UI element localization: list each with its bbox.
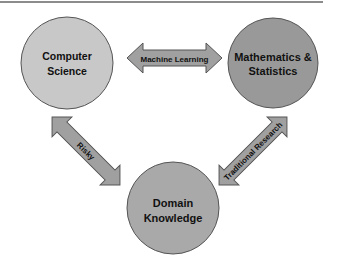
edge-machine-learning-arrow: Machine Learning [127, 43, 222, 73]
edge-risky-arrow: Risky [42, 107, 130, 195]
edge-label: Machine Learning [140, 55, 208, 64]
edge-label: Traditional Research [222, 120, 284, 182]
node-label-line: Mathematics & [234, 51, 312, 63]
node-computer-science: Computer Science [21, 17, 113, 109]
edge-traditional-research-arrow: Traditional Research [209, 107, 297, 195]
node-label-line: Computer [42, 50, 92, 62]
node-label-line: Domain [153, 197, 194, 209]
node-label-line: Statistics [249, 65, 298, 77]
node-label-line: Knowledge [144, 212, 203, 224]
node-domain-knowledge: Domain Knowledge [127, 162, 219, 254]
node-label-line: Science [47, 65, 87, 77]
data-science-diagram: Computer Science Mathematics & Statistic… [0, 0, 339, 264]
node-mathematics-statistics: Mathematics & Statistics [228, 18, 318, 108]
